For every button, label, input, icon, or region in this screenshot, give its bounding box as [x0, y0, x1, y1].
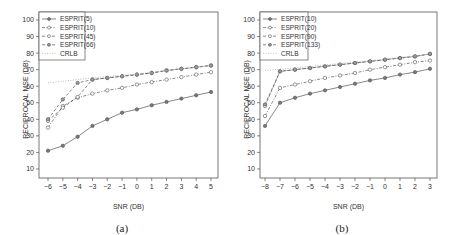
- data-point-marker: [263, 114, 266, 117]
- panel-caption: (b): [336, 222, 349, 235]
- x-tick-label: 2: [413, 183, 417, 190]
- legend-marker: [269, 18, 272, 21]
- series-line-esprit-90: [265, 54, 430, 106]
- data-point-marker: [323, 89, 326, 92]
- data-point-marker: [135, 108, 138, 111]
- data-point-marker: [413, 70, 416, 73]
- x-tick-label: −6: [291, 183, 299, 190]
- x-tick-label: −3: [88, 183, 96, 190]
- data-point-marker: [293, 96, 296, 99]
- x-tick-label: 3: [428, 183, 432, 190]
- series-line-esprit-45: [48, 66, 211, 121]
- data-point-marker: [194, 94, 197, 97]
- data-point-marker: [368, 79, 371, 82]
- data-point-marker: [278, 86, 281, 89]
- legend-label: CRLB: [60, 50, 78, 57]
- data-point-marker: [209, 90, 212, 93]
- data-point-marker: [120, 111, 123, 114]
- x-tick-label: 0: [135, 183, 139, 190]
- data-point-marker: [165, 100, 168, 103]
- series-line-esprit-20: [265, 61, 430, 116]
- legend-label: ESPRIT(10): [60, 24, 96, 32]
- x-tick-label: 1: [398, 183, 402, 190]
- y-axis-title: RECIPROCAL MSE (DB): [243, 60, 251, 139]
- data-point-marker: [308, 66, 311, 69]
- x-tick-label: 1: [150, 183, 154, 190]
- y-tick-label: 100: [22, 16, 34, 23]
- y-tick-label: 20: [26, 149, 34, 156]
- legend-marker: [269, 43, 272, 46]
- data-point-marker: [383, 58, 386, 61]
- x-axis-title: SNR (DB): [113, 203, 144, 211]
- data-point-marker: [76, 81, 79, 84]
- data-point-marker: [413, 55, 416, 58]
- x-tick-label: 0: [383, 183, 387, 190]
- legend-label: ESPRIT(90): [281, 33, 317, 41]
- x-tick-label: −7: [276, 183, 284, 190]
- x-tick-label: −8: [261, 183, 269, 190]
- data-point-marker: [413, 61, 416, 64]
- data-point-marker: [76, 95, 79, 98]
- y-tick-label: 10: [247, 165, 255, 172]
- data-point-marker: [308, 92, 311, 95]
- data-point-marker: [46, 126, 49, 129]
- data-point-marker: [61, 106, 64, 109]
- series-line-esprit-10: [265, 69, 430, 126]
- data-point-marker: [91, 92, 94, 95]
- data-point-marker: [165, 78, 168, 81]
- x-tick-label: −2: [351, 183, 359, 190]
- data-point-marker: [308, 80, 311, 83]
- data-point-marker: [46, 149, 49, 152]
- data-point-marker: [398, 63, 401, 66]
- legend-label: ESPRIT(5): [60, 15, 92, 23]
- data-point-marker: [368, 68, 371, 71]
- data-point-marker: [76, 135, 79, 138]
- data-point-marker: [383, 65, 386, 68]
- data-point-marker: [91, 124, 94, 127]
- legend-label: CRLB: [281, 50, 299, 57]
- data-point-marker: [338, 74, 341, 77]
- legend-marker: [269, 26, 272, 29]
- data-point-marker: [106, 89, 109, 92]
- x-tick-label: 5: [209, 183, 213, 190]
- series-line-esprit-10: [48, 72, 211, 127]
- legend-label: ESPRIT(133): [281, 41, 320, 49]
- data-point-marker: [120, 86, 123, 89]
- data-point-marker: [293, 83, 296, 86]
- legend-marker: [48, 35, 51, 38]
- legend-marker: [269, 35, 272, 38]
- data-point-marker: [61, 98, 64, 101]
- y-tick-label: 10: [26, 165, 34, 172]
- data-point-marker: [293, 68, 296, 71]
- y-tick-label: 90: [26, 33, 34, 40]
- chart-panel-a: 102030405060708090100−6−5−4−3−2−1012345S…: [22, 12, 218, 235]
- figure-canvas: 102030405060708090100−6−5−4−3−2−1012345S…: [0, 0, 449, 235]
- panel-caption: (a): [116, 222, 129, 235]
- x-tick-label: −5: [306, 183, 314, 190]
- series-line-esprit-133: [265, 54, 430, 104]
- legend-label: ESPRIT(10): [281, 15, 317, 23]
- legend-label: ESPRIT(20): [281, 24, 317, 32]
- data-point-marker: [338, 85, 341, 88]
- x-tick-label: 3: [179, 183, 183, 190]
- x-tick-label: −6: [44, 183, 52, 190]
- legend-marker: [48, 18, 51, 21]
- y-tick-label: 20: [247, 149, 255, 156]
- legend-marker: [48, 43, 51, 46]
- y-tick-label: 80: [26, 50, 34, 57]
- x-tick-label: −4: [74, 183, 82, 190]
- data-point-marker: [428, 59, 431, 62]
- data-point-marker: [353, 71, 356, 74]
- y-axis-title: RECIPROCAL MSE (DB): [22, 60, 30, 139]
- data-point-marker: [46, 118, 49, 121]
- data-point-marker: [398, 73, 401, 76]
- legend-marker: [48, 26, 51, 29]
- data-point-marker: [194, 73, 197, 76]
- data-point-marker: [106, 118, 109, 121]
- x-tick-label: 4: [194, 183, 198, 190]
- data-point-marker: [353, 82, 356, 85]
- data-point-marker: [428, 67, 431, 70]
- data-point-marker: [209, 70, 212, 73]
- y-tick-label: 80: [247, 50, 255, 57]
- x-tick-label: −4: [321, 183, 329, 190]
